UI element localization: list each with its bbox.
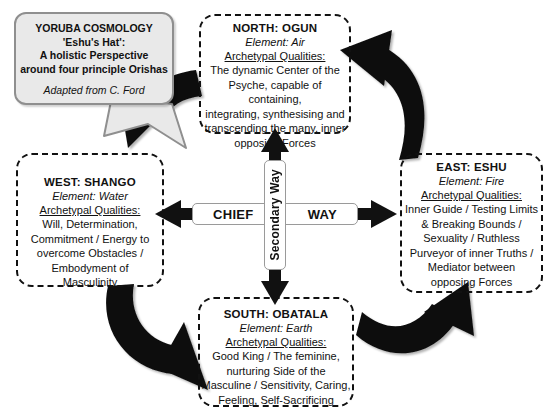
- quadrant-east-body-line: & Breaking Bounds /: [402, 217, 541, 232]
- quadrant-south-body-line: Masculine / Sensitivity, Caring,: [200, 378, 352, 393]
- chief-way-label-left: CHIEF: [213, 207, 254, 222]
- callout-title-line-3: A holistic Perspective: [16, 49, 172, 63]
- chief-way-label-right: WAY: [308, 207, 337, 222]
- callout-credit: Adapted from C. Ford: [16, 83, 172, 97]
- quadrant-south-element: Element: Earth: [200, 321, 352, 335]
- curved-arrow-west-to-south: [106, 284, 208, 390]
- quadrant-west-title: WEST: SHANGO: [18, 175, 162, 189]
- quadrant-west-body-line: Masculinity: [18, 275, 162, 290]
- quadrant-north-body-line: opposing Forces: [201, 136, 349, 151]
- callout-title-line-2: 'Eshu's Hat':: [16, 36, 172, 50]
- quadrant-north: NORTH: OGUN Element: Air Archetypal Qual…: [199, 14, 351, 134]
- quadrant-east-body-line: Sexuality / Ruthless: [402, 231, 541, 246]
- quadrant-west-element: Element: Water: [18, 189, 162, 203]
- quadrant-west-body-line: Will, Determination,: [18, 217, 162, 232]
- title-callout: YORUBA COSMOLOGY 'Eshu's Hat': A holisti…: [14, 12, 174, 105]
- quadrant-west-body-line: overcome Obstacles /: [18, 246, 162, 261]
- secondary-way-label: Secondary Way: [268, 169, 282, 261]
- quadrant-north-qualities-label: Archetypal Qualities:: [201, 49, 349, 63]
- quadrant-east-element: Element: Fire: [402, 174, 541, 188]
- quadrant-south-body-line: nurturing Side of the: [200, 364, 352, 379]
- quadrant-south-title: SOUTH: OBATALA: [200, 307, 352, 321]
- quadrant-west-body-line: Embodyment of: [18, 261, 162, 276]
- quadrant-north-body-line: The dynamic Center of the: [201, 63, 349, 78]
- callout-title-line-4: around four principle Orishas: [16, 63, 172, 77]
- quadrant-east-body-line: Purveyor of inner Truths /: [402, 246, 541, 261]
- quadrant-north-element: Element: Air: [201, 35, 349, 49]
- callout-title-line-1: YORUBA COSMOLOGY: [16, 22, 172, 36]
- quadrant-west-qualities-label: Archetypal Qualities:: [18, 203, 162, 217]
- quadrant-east: EAST: ESHU Element: Fire Archetypal Qual…: [400, 153, 543, 293]
- quadrant-south-body-line: Good King / The feminine,: [200, 349, 352, 364]
- quadrant-north-title: NORTH: OGUN: [201, 21, 349, 35]
- quadrant-north-body-line: transcending the many, inner: [201, 121, 349, 136]
- secondary-way-bar: Secondary Way: [264, 160, 286, 270]
- diagram-canvas: YORUBA COSMOLOGY 'Eshu's Hat': A holisti…: [0, 0, 550, 419]
- quadrant-north-body-line: Psyche, capable of containing,: [201, 78, 349, 107]
- quadrant-east-qualities-label: Archetypal Qualities:: [402, 188, 541, 202]
- quadrant-east-body-line: Inner Guide / Testing Limits: [402, 202, 541, 217]
- quadrant-east-title: EAST: ESHU: [402, 160, 541, 174]
- quadrant-south-qualities-label: Archetypal Qualities:: [200, 335, 352, 349]
- quadrant-west: WEST: SHANGO Element: Water Archetypal Q…: [16, 153, 164, 287]
- quadrant-north-body-line: integrating, synthesising and: [201, 107, 349, 122]
- quadrant-south-body-line: Feeling, Self-Sacrificing: [200, 393, 352, 408]
- curved-arrow-east-to-north: [340, 30, 424, 160]
- quadrant-east-body-line: Mediator between: [402, 260, 541, 275]
- quadrant-south: SOUTH: OBATALA Element: Earth Archetypal…: [198, 297, 354, 407]
- quadrant-east-body-line: opposing Forces: [402, 275, 541, 290]
- quadrant-west-body-line: Commitment / Energy to: [18, 232, 162, 247]
